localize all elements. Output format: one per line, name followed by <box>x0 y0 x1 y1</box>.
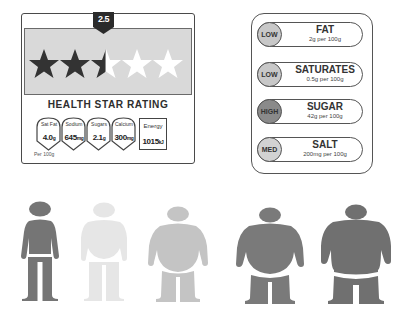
body-figures-illustration <box>0 0 406 316</box>
figure-normal-icon <box>21 202 59 302</box>
figure-severely-obese-icon <box>321 205 391 305</box>
figure-overweight-icon <box>148 207 208 303</box>
figure-obese-icon <box>236 208 304 305</box>
figure-pale-icon <box>81 203 127 302</box>
body-figures-row <box>0 0 406 316</box>
